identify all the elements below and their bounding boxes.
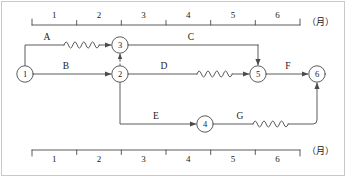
bottom-tick-label-3: 3 xyxy=(129,155,159,164)
bottom-tick-label-5: 5 xyxy=(218,155,248,164)
activity-label-f: F xyxy=(279,62,297,72)
top-tick-label-5: 5 xyxy=(218,11,248,20)
node-3-label: 3 xyxy=(112,41,128,50)
node-2-label: 2 xyxy=(112,70,128,79)
top-tick-label-1: 1 xyxy=(39,11,69,20)
network-diagram-canvas xyxy=(0,0,346,177)
top-time-axis xyxy=(32,19,300,25)
bottom-tick-label-6: 6 xyxy=(263,155,293,164)
activity-label-b: B xyxy=(57,62,75,72)
bottom-tick-label-1: 1 xyxy=(39,155,69,164)
bottom-axis-unit-label: （月） xyxy=(307,147,334,156)
activity-label-a: A xyxy=(38,33,56,43)
top-axis-unit-label: （月） xyxy=(307,18,334,27)
top-tick-label-2: 2 xyxy=(84,11,114,20)
node-6-label: 6 xyxy=(309,70,325,79)
activity-label-d: D xyxy=(155,62,173,72)
top-tick-label-4: 4 xyxy=(173,11,203,20)
activity-label-e: E xyxy=(147,112,165,122)
activity-g-path xyxy=(214,83,317,127)
top-tick-label-6: 6 xyxy=(263,11,293,20)
node-5-label: 5 xyxy=(250,70,266,79)
top-tick-label-3: 3 xyxy=(129,11,159,20)
node-4-label: 4 xyxy=(197,120,213,129)
activity-label-c: C xyxy=(182,33,200,43)
node-circles xyxy=(17,37,325,132)
activity-d-path xyxy=(129,71,249,77)
bottom-tick-label-4: 4 xyxy=(173,155,203,164)
bottom-tick-label-2: 2 xyxy=(84,155,114,164)
diagram-root: 1 2 3 4 5 6 （月） 1 2 3 4 5 6 （月） 1 2 3 4 … xyxy=(0,0,346,177)
node-1-label: 1 xyxy=(17,70,33,79)
bottom-time-axis xyxy=(32,150,300,156)
activity-c-path xyxy=(129,45,258,65)
activity-label-g: G xyxy=(231,112,249,122)
